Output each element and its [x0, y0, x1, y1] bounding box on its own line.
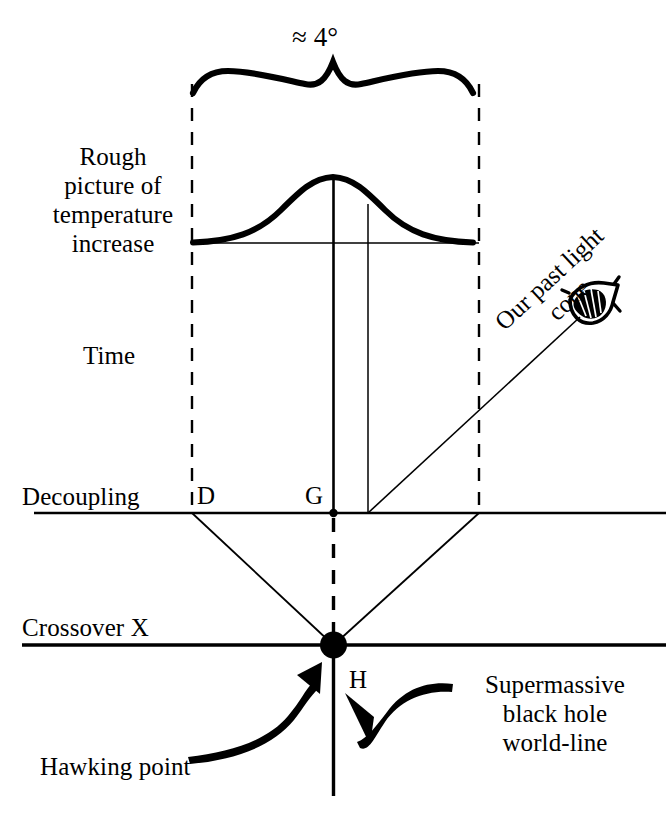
light-cone-edge-left [192, 513, 330, 642]
spacetime-diagram: ≈ 4° Rough picture of temperature increa… [0, 0, 666, 835]
point-g-dot [329, 509, 337, 517]
past-light-cone-ray [368, 317, 580, 513]
angular-scale-label: ≈ 4° [292, 22, 338, 53]
point-d-label: D [197, 481, 215, 510]
point-g-label: G [305, 481, 323, 510]
crossover-label: Crossover X [22, 613, 149, 642]
point-h-label: H [349, 665, 367, 694]
hawking-point-arrow [188, 681, 320, 764]
supermassive-black-hole-label: Supermassive black hole world-line [455, 670, 655, 757]
hawking-point-label: Hawking point [40, 752, 191, 781]
light-cone-edge-right [337, 513, 479, 642]
time-axis-label: Time [83, 341, 135, 370]
rough-picture-label: Rough picture of temperature increase [38, 142, 188, 258]
smbh-arrowhead [345, 693, 374, 745]
decoupling-label: Decoupling [22, 482, 140, 511]
angular-profile-curve [193, 62, 473, 93]
